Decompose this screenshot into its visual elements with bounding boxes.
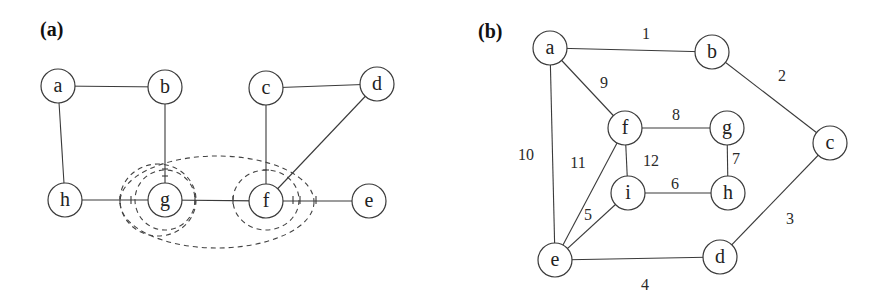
node-d: d [360,67,394,101]
edge-weight-g-h: 7 [732,150,740,167]
node-a: a [41,69,75,103]
node-f: f [608,111,642,145]
node-b: b [148,70,182,104]
edge-a-e [550,48,555,260]
node-label: d [372,72,382,94]
diagram-canvas: (a) (b) abcdhgfe 123456789101112 abcfgih… [0,0,885,303]
node-label: c [826,131,835,153]
panel-a-nodes: abcdhgfe [41,67,394,218]
node-label: d [715,245,725,267]
node-b: b [695,35,729,69]
panel-b-edges [550,48,830,260]
node-label: f [622,116,629,138]
edge-weight-f-i: 12 [643,152,659,169]
node-label: e [365,189,374,211]
node-label: e [551,248,560,270]
edge-d-f [266,84,377,201]
edge-a-b [550,48,712,52]
edge-weight-e-d: 4 [641,276,649,293]
panel-a-label: (a) [40,18,63,41]
node-e: e [538,243,572,277]
panel-b-graph: 123456789101112 abcfgihed [518,25,847,293]
edge-weight-a-f: 9 [600,74,608,91]
node-label: h [723,181,733,203]
node-label: g [722,116,732,139]
edge-weight-e-f: 11 [570,154,585,171]
edge-weight-b-c: 2 [778,67,786,84]
node-label: g [160,188,170,211]
node-i: i [611,176,645,210]
node-d: d [703,240,737,274]
panel-a-edges [58,84,377,201]
node-a: a [533,31,567,65]
node-c: c [813,126,847,160]
node-label: b [707,40,717,62]
node-label: a [546,36,555,58]
node-f: f [249,184,283,218]
panel-a-graph: abcdhgfe [41,67,394,248]
edge-weight-e-i: 5 [584,206,592,223]
node-label: b [160,75,170,97]
node-e: e [352,184,386,218]
node-label: a [54,74,63,96]
node-g: g [710,111,744,145]
edge-weight-a-b: 1 [642,25,650,42]
node-label: h [60,188,70,210]
node-label: f [263,189,270,211]
edge-weight-a-e: 10 [518,146,534,163]
node-h: h [48,183,82,217]
node-label: c [262,76,271,98]
edge-weight-c-d: 3 [786,210,794,227]
node-label: i [625,181,631,203]
edge-weight-i-h: 6 [671,175,679,192]
node-c: c [249,71,283,105]
panel-b-label: (b) [478,20,502,43]
node-g: g [148,183,182,217]
node-h: h [711,176,745,210]
edge-e-d [555,257,720,260]
edge-weight-f-g: 8 [672,106,680,123]
